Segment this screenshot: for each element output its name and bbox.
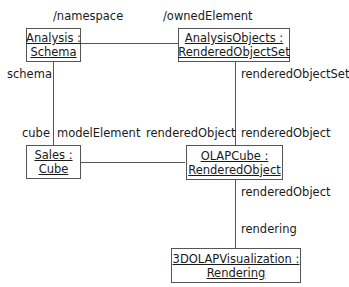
role-cube: cube: [22, 126, 50, 140]
link-sales-olapcube: [80, 162, 185, 163]
object-class: Cube: [39, 162, 69, 176]
object-analysis-schema[interactable]: Analysis : Schema: [26, 28, 81, 62]
role-model-element: modelElement: [57, 126, 140, 140]
object-class: RenderedObjectSet: [178, 45, 289, 59]
object-olapcube-renderedobject[interactable]: OLAPCube : RenderedObject: [186, 145, 283, 180]
object-class: Rendering: [207, 266, 266, 280]
role-owned-element: /ownedElement: [163, 9, 253, 23]
role-schema: schema: [7, 67, 52, 81]
role-rendered-object-right: renderedObject: [241, 126, 331, 140]
object-name: Sales :: [34, 148, 72, 162]
role-rendered-object-set: renderedObjectSet: [241, 67, 349, 81]
object-class: RenderedObject: [188, 163, 281, 177]
object-name: Analysis :: [26, 31, 81, 45]
object-name: AnalysisObjects :: [185, 31, 283, 45]
link-olapcube-visualization: [235, 180, 236, 248]
link-analysis-analysisobjects: [81, 43, 183, 44]
link-analysis-sales: [53, 57, 54, 148]
object-analysisobjects-renderedobjectset[interactable]: AnalysisObjects : RenderedObjectSet: [178, 28, 290, 62]
object-name: OLAPCube :: [201, 149, 269, 163]
object-3dolapvisualization-rendering[interactable]: 3DOLAPVisualization : Rendering: [171, 248, 301, 283]
role-rendering: rendering: [241, 222, 297, 236]
role-rendered-object-left: renderedObject: [146, 126, 236, 140]
object-name: 3DOLAPVisualization :: [173, 252, 300, 266]
object-class: Schema: [30, 45, 76, 59]
role-namespace: /namespace: [53, 9, 123, 23]
object-sales-cube[interactable]: Sales : Cube: [26, 145, 81, 179]
role-rendered-object-bottom: renderedObject: [241, 185, 331, 199]
